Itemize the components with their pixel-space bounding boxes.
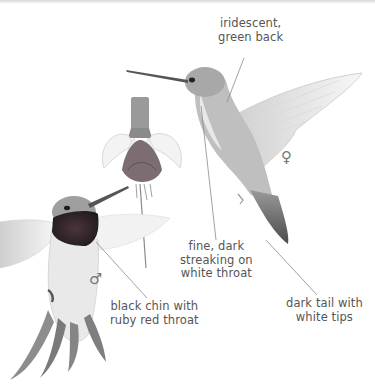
label-female-tail: dark tail with white tips (286, 297, 363, 324)
male-symbol-icon: ♂ (89, 272, 102, 287)
label-female-throat: fine, dark streaking on white throat (180, 240, 253, 281)
female-symbol-icon: ♀ (281, 150, 292, 165)
male-hummingbird (0, 186, 170, 380)
leader-line-female-tail (266, 240, 317, 295)
illustration-art (0, 0, 375, 387)
leader-line-green-back (227, 58, 244, 102)
label-green-back: iridescent, green back (218, 17, 283, 44)
hummingbird-illustration: iridescent, green back fine, dark streak… (0, 0, 375, 387)
leader-line-male-throat (96, 242, 147, 298)
label-male-throat: black chin with ruby red throat (110, 300, 199, 327)
